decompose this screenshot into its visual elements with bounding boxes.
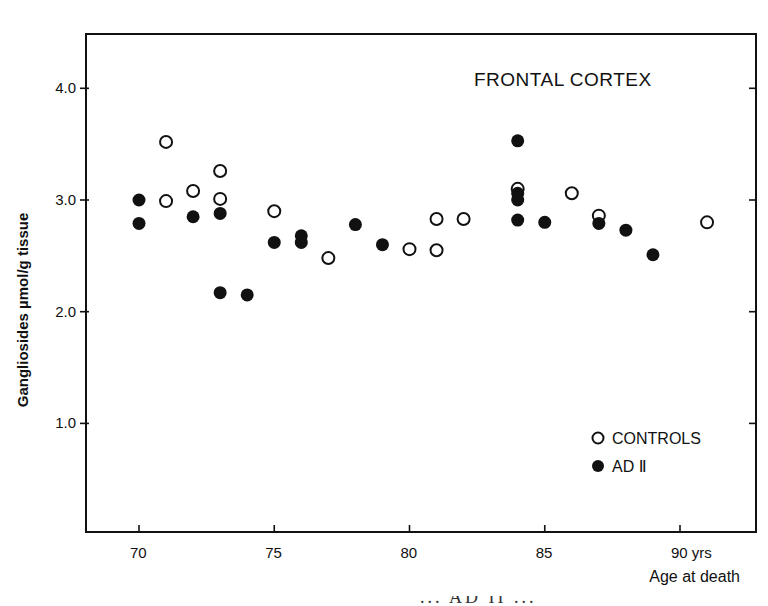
ad2-point: [214, 207, 227, 220]
x-tick-label: 80: [401, 544, 418, 561]
y-tick-label: 2.0: [55, 303, 76, 320]
y-tick-label: 3.0: [55, 191, 76, 208]
control-point: [404, 243, 416, 255]
x-tick-label: 70: [130, 544, 147, 561]
control-point: [160, 136, 172, 148]
cropped-caption: ... AD II ...: [0, 596, 768, 606]
control-point: [268, 205, 280, 217]
control-point: [701, 216, 713, 228]
legend: CONTROLS AD Ⅱ: [592, 430, 701, 475]
x-tick-label: 90 yrs: [671, 544, 712, 561]
y-tick-label: 1.0: [55, 414, 76, 431]
legend-open-circle-icon: [593, 433, 604, 444]
ad2-point: [214, 286, 227, 299]
scatter-chart: 1.02.03.04.0 7075808590 yrs FRONTAL CORT…: [0, 0, 768, 606]
ad2-point: [592, 217, 605, 230]
ad2-point: [133, 194, 146, 207]
ad2-point: [268, 236, 281, 249]
x-axis-ticks: 7075808590 yrs: [130, 525, 712, 561]
control-point: [214, 193, 226, 205]
ad2-point: [511, 194, 524, 207]
legend-label-controls: CONTROLS: [612, 430, 701, 447]
legend-label-ad2: AD Ⅱ: [612, 458, 647, 475]
x-tick-label: 75: [265, 544, 282, 561]
ad2-point: [376, 238, 389, 251]
ad2-point: [187, 210, 200, 223]
ad2-point: [511, 214, 524, 227]
ad2-point: [646, 248, 659, 261]
control-point: [160, 195, 172, 207]
ad2-point: [241, 288, 254, 301]
plot-frame: [86, 34, 756, 532]
control-point: [566, 187, 578, 199]
x-axis-label: Age at death: [649, 568, 740, 585]
y-tick-label: 4.0: [55, 79, 76, 96]
ad2-point: [619, 224, 632, 237]
control-point: [458, 213, 470, 225]
ad2-point: [538, 216, 551, 229]
ad2-point: [349, 218, 362, 231]
control-point: [431, 244, 443, 256]
x-tick-label: 85: [536, 544, 553, 561]
control-point: [214, 165, 226, 177]
caption-text: ... AD II ...: [420, 596, 768, 606]
ad2-point: [133, 217, 146, 230]
control-point: [187, 185, 199, 197]
chart-title: FRONTAL CORTEX: [474, 69, 652, 90]
control-point: [431, 213, 443, 225]
ad2-point: [295, 236, 308, 249]
legend-filled-circle-icon: [592, 460, 604, 472]
ad2-point: [511, 134, 524, 147]
y-axis-label: Gangliosides µmol/g tissue: [14, 213, 31, 408]
data-points: [133, 134, 714, 301]
control-point: [322, 252, 334, 264]
